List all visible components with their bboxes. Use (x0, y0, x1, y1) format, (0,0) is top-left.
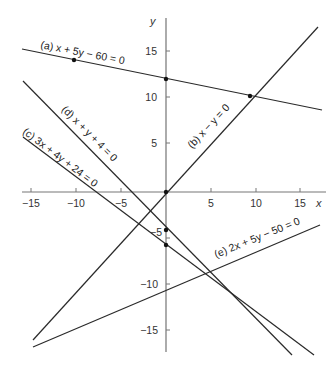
svg-text:15: 15 (145, 45, 157, 57)
line-e (33, 225, 320, 347)
label-e: (e) 2x + 5y − 50 = 0 (212, 214, 301, 259)
svg-text:−15: −15 (140, 324, 158, 336)
chart-canvas: −15 −10 −5 5 10 15 x 15 10 5 −5 −10 −15 … (0, 0, 333, 377)
line-a (22, 49, 322, 110)
svg-text:−10: −10 (67, 197, 85, 209)
svg-text:15: 15 (294, 197, 306, 209)
label-a: (a) x + 5y − 60 = 0 (40, 38, 126, 66)
line-b (33, 27, 318, 340)
y-axis-label: y (149, 15, 157, 27)
svg-text:5: 5 (151, 137, 157, 149)
x-tick-labels: −15 −10 −5 5 10 15 x (22, 197, 322, 209)
line-d (23, 81, 292, 355)
svg-text:−15: −15 (22, 197, 40, 209)
marked-points (72, 58, 252, 247)
svg-text:−10: −10 (140, 278, 158, 290)
series-lines (22, 27, 322, 355)
label-b: (b) x − y = 0 (185, 101, 232, 150)
svg-text:10: 10 (250, 197, 262, 209)
y-tick-labels: 15 10 5 −5 −10 −15 y (140, 15, 162, 336)
x-axis-label: x (315, 197, 322, 209)
svg-text:5: 5 (208, 197, 214, 209)
svg-text:10: 10 (145, 91, 157, 103)
